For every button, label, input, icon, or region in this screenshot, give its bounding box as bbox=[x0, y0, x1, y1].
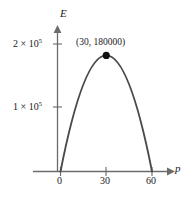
y-tick-label-100000-mantissa: 1 × 10 bbox=[13, 101, 39, 112]
vertex-point-marker bbox=[103, 52, 110, 59]
x-axis-label: p bbox=[175, 163, 181, 174]
x-tick-label-0: 0 bbox=[57, 176, 62, 186]
x-tick-label-60: 60 bbox=[146, 176, 156, 186]
parabola-chart bbox=[0, 0, 187, 197]
y-tick-label-200000: 2 × 105 bbox=[13, 39, 42, 49]
y-axis-arrowhead bbox=[54, 25, 62, 33]
y-tick-label-100000-exponent: 5 bbox=[39, 100, 42, 107]
y-tick-label-100000: 1 × 105 bbox=[13, 102, 42, 112]
parabola-curve bbox=[61, 55, 153, 171]
vertex-annotation-label: (30, 180000) bbox=[76, 38, 125, 48]
y-axis-label: E bbox=[60, 8, 67, 19]
y-tick-label-200000-exponent: 5 bbox=[39, 37, 42, 44]
y-tick-label-200000-mantissa: 2 × 10 bbox=[13, 38, 39, 49]
y-axis bbox=[54, 25, 62, 172]
x-axis-arrowhead bbox=[167, 168, 175, 176]
x-tick-label-30: 30 bbox=[100, 176, 110, 186]
